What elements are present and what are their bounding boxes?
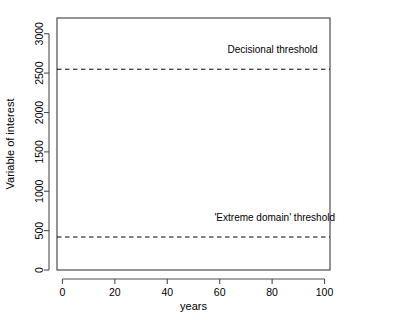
x-axis-tick-label: 0 xyxy=(60,286,66,298)
plot-frame xyxy=(57,18,330,270)
y-axis-title: Variable of interest xyxy=(4,99,16,190)
chart-figure: 050010001500200025003000020406080100year… xyxy=(0,0,401,325)
y-axis-tick-label: 3000 xyxy=(33,22,45,46)
x-axis-tick-label: 80 xyxy=(266,286,278,298)
y-axis-tick-label: 2000 xyxy=(33,101,45,125)
extreme-domain-threshold-label: 'Extreme domain' threshold xyxy=(214,212,335,223)
x-axis-tick-label: 60 xyxy=(214,286,226,298)
y-axis-tick-label: 2500 xyxy=(33,61,45,85)
x-axis-tick-label: 40 xyxy=(161,286,173,298)
x-axis-tick-label: 100 xyxy=(316,286,334,298)
y-axis-tick-label: 500 xyxy=(33,222,45,240)
chart-canvas: 050010001500200025003000020406080100year… xyxy=(0,0,401,325)
x-axis-tick-label: 20 xyxy=(109,286,121,298)
decisional-threshold-label: Decisional threshold xyxy=(228,44,318,55)
y-axis-tick-label: 0 xyxy=(33,267,45,273)
y-axis-tick-label: 1500 xyxy=(33,140,45,164)
y-axis-tick-label: 1000 xyxy=(33,179,45,203)
x-axis-title: years xyxy=(180,300,207,312)
